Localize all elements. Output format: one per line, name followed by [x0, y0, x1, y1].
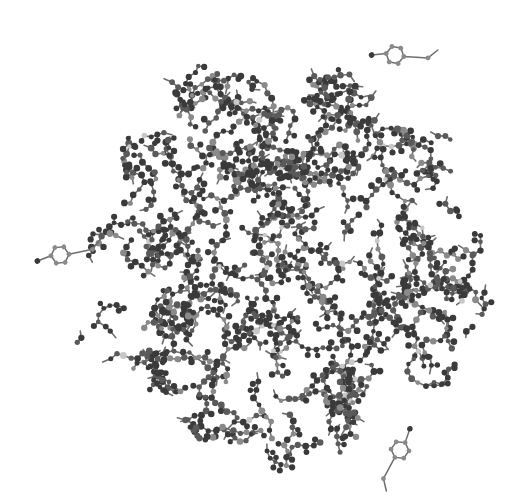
molecular-model — [0, 0, 531, 503]
